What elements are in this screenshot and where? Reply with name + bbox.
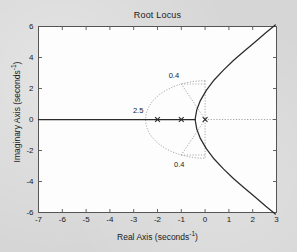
x-tick-label: 2 xyxy=(244,215,262,224)
x-tick-label: -2 xyxy=(149,215,167,224)
y-tick-label: 2 xyxy=(18,84,34,93)
damping-ratio-ray-lower-label: 0.4 xyxy=(174,160,184,169)
x-tick-label: -4 xyxy=(101,215,119,224)
x-tick-label: -3 xyxy=(125,215,143,224)
x-tick-label: 0 xyxy=(196,215,214,224)
y-tick-label: 0 xyxy=(18,115,34,124)
y-tick-label: -6 xyxy=(18,208,34,217)
natural-frequency-semicircle-label: 2.5 xyxy=(133,106,143,115)
damping-ratio-ray-upper-label: 0.4 xyxy=(169,71,179,80)
x-tick-label: -1 xyxy=(172,215,190,224)
x-tick-label: 1 xyxy=(220,215,238,224)
y-tick-label: 6 xyxy=(18,22,34,31)
y-tick-label: -2 xyxy=(18,146,34,155)
x-tick-label: -6 xyxy=(53,215,71,224)
root-locus-figure: Root Locus Real Axis (seconds-1) Imagina… xyxy=(0,0,297,252)
y-tick-label: 4 xyxy=(18,53,34,62)
x-tick-label: 3 xyxy=(268,215,286,224)
y-tick-label: -4 xyxy=(18,177,34,186)
x-tick-label: -5 xyxy=(77,215,95,224)
